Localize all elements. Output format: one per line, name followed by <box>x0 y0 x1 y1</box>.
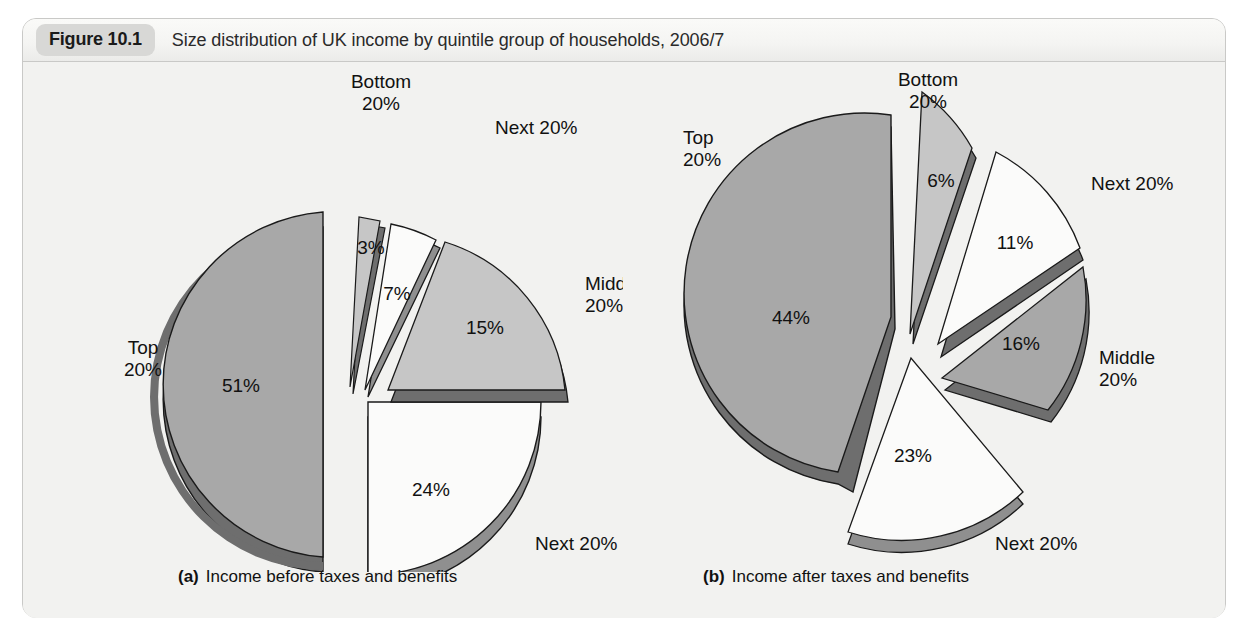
slice-a-middle-value: 15% <box>466 317 504 338</box>
panel-a-marker: (a) <box>178 567 199 586</box>
slice-a-next-lower-label: Next 20% <box>535 533 617 554</box>
panel-a-caption: (a)Income before taxes and benefits <box>178 567 457 587</box>
svg-text:20%: 20% <box>1099 369 1137 390</box>
svg-text:Top: Top <box>128 337 159 358</box>
svg-text:20%: 20% <box>585 295 623 316</box>
figure-frame: Figure 10.1 Size distribution of UK inco… <box>22 18 1226 618</box>
slice-b-middle-value: 16% <box>1002 333 1040 354</box>
slice-a-bottom-label: Bottom 20% <box>351 72 411 114</box>
figure-header: Figure 10.1 Size distribution of UK inco… <box>23 19 1225 62</box>
svg-text:20%: 20% <box>362 93 400 114</box>
panel-a-caption-text: Income before taxes and benefits <box>206 567 457 586</box>
svg-text:20%: 20% <box>124 359 162 380</box>
slice-b-top-value: 44% <box>772 307 810 328</box>
slice-b-top-label: Top 20% <box>683 127 721 170</box>
slice-a-next-lower-value: 24% <box>412 479 450 500</box>
slice-a-next-upper-label: Next 20% <box>495 117 577 138</box>
slice-b-next-lower-label: Next 20% <box>995 533 1077 554</box>
slice-a-next-upper-value: 7% <box>383 283 411 304</box>
svg-text:20%: 20% <box>683 149 721 170</box>
slice-b-next-upper-label: Next 20% <box>1091 173 1173 194</box>
svg-text:Bottom: Bottom <box>898 72 958 90</box>
panel-b-caption-text: Income after taxes and benefits <box>732 567 969 586</box>
figure-number-badge: Figure 10.1 <box>36 24 155 56</box>
slice-b-next-lower-value: 23% <box>894 445 932 466</box>
pie-chart-b: 44% 6% 11% 16% <box>623 72 1225 572</box>
slice-a-middle-label: Middle 20% <box>585 273 623 316</box>
svg-text:Middle: Middle <box>585 273 623 294</box>
slice-b-next-upper-value: 11% <box>997 232 1034 253</box>
slice-a-next-lower[interactable]: 24% <box>368 402 541 572</box>
panel-b-marker: (b) <box>703 567 725 586</box>
slice-a-top-value: 51% <box>222 375 260 396</box>
slice-b-middle-label: Middle 20% <box>1099 347 1155 390</box>
slice-b-bottom-value: 6% <box>927 170 955 191</box>
panel-b-caption: (b)Income after taxes and benefits <box>703 567 969 587</box>
svg-text:Middle: Middle <box>1099 347 1155 368</box>
figure-title: Size distribution of UK income by quinti… <box>172 30 724 51</box>
figure-body: 24% 51% 3% 7% <box>23 62 1225 618</box>
slice-a-top-label: Top 20% <box>124 337 162 380</box>
slice-a-bottom-value: 3% <box>357 237 385 258</box>
svg-text:Bottom: Bottom <box>351 72 411 92</box>
slice-b-bottom-label: Bottom 20% <box>898 72 958 112</box>
pie-chart-a: 24% 51% 3% 7% <box>23 72 623 572</box>
svg-text:Top: Top <box>683 127 714 148</box>
svg-text:20%: 20% <box>909 91 947 112</box>
slice-a-top[interactable]: 51% <box>150 212 323 572</box>
